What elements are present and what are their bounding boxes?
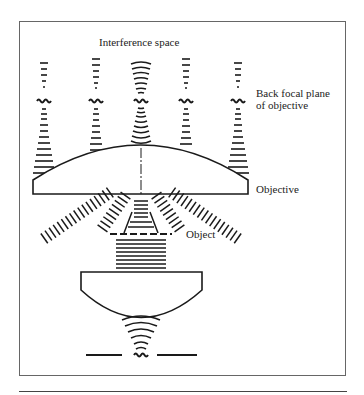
diagram-canvas: [0, 0, 364, 395]
cone-order-plus1: [179, 59, 193, 144]
source-waves: [122, 316, 160, 349]
illumination-waves: [116, 240, 166, 268]
cone-order-minus2: [33, 63, 55, 173]
label-objective: Objective: [256, 183, 299, 195]
objective-lens: [33, 145, 248, 194]
zero-order-beam: [124, 201, 158, 233]
cone-order-zero: [131, 62, 151, 143]
label-back-focal-plane-2: of objective: [256, 99, 308, 111]
condenser-lens: [81, 272, 202, 318]
cone-order-minus1: [89, 59, 103, 150]
figure-frame: [20, 22, 346, 376]
label-interference-space: Interference space: [99, 36, 179, 48]
label-object: Object: [186, 228, 215, 240]
cone-order-plus2: [227, 63, 249, 173]
label-back-focal-plane-1: Back focal plane: [256, 87, 330, 99]
light-source: [86, 354, 197, 357]
